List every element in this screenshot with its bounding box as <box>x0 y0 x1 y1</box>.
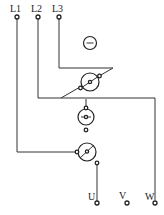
switch-bottom-icon <box>75 143 99 165</box>
label-l2: L2 <box>31 3 42 14</box>
terminal-l2 <box>36 15 40 19</box>
terminal-v <box>125 201 129 205</box>
label-w: W <box>145 191 155 202</box>
terminal-u <box>95 201 99 205</box>
terminal-l1 <box>15 15 19 19</box>
terminal-l3 <box>57 15 61 19</box>
label-v: V <box>119 190 127 201</box>
wiring-diagram: L1 L2 L3 <box>0 0 164 215</box>
label-u: U <box>88 191 96 202</box>
switch-middle-icon <box>78 99 94 132</box>
switch-top-icon <box>79 73 102 91</box>
label-l3: L3 <box>52 3 63 14</box>
label-l1: L1 <box>10 3 21 14</box>
minus-indicator-icon <box>84 37 97 50</box>
wire-l1 <box>17 18 76 152</box>
